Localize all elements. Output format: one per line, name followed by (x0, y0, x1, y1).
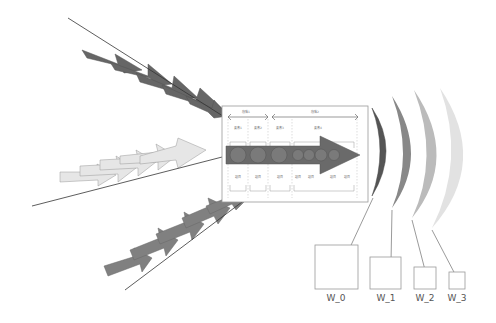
bottom-label-4: 項目 (295, 174, 301, 179)
top-label-2: 要素2 (254, 125, 262, 130)
input-arrow-group-middle (60, 138, 206, 186)
output-arc-w1 (392, 96, 411, 208)
output-arc-w3 (432, 88, 463, 228)
output-box-w3 (449, 272, 465, 289)
bottom-label-1: 項目 (235, 174, 241, 179)
top-label-3: 要素3 (276, 125, 284, 130)
output-label-w2: W_2 (415, 293, 434, 303)
diagram-canvas: 段階1 段階2 要素1 要素2 要素3 要素4 (0, 0, 496, 323)
output-box-w1 (370, 257, 401, 289)
output-arc-w2 (412, 90, 437, 218)
bottom-label-6: 項目 (330, 174, 336, 179)
output-box-w2 (414, 267, 436, 289)
top-label-1: 要素1 (234, 125, 242, 130)
connector-line-bottom (125, 196, 250, 290)
bottom-label-2: 項目 (255, 174, 261, 179)
process-panel: 段階1 段階2 要素1 要素2 要素3 要素4 (222, 106, 368, 202)
output-label-w0: W_0 (326, 293, 345, 303)
phase-label-2: 段階2 (311, 109, 319, 114)
top-label-4: 要素4 (314, 125, 322, 130)
connector-line-top (68, 18, 226, 118)
output-box-w0 (315, 245, 358, 289)
output-arc-w0 (372, 108, 386, 196)
bottom-label-3: 項目 (277, 174, 283, 179)
phase-label-1: 段階1 (242, 109, 250, 114)
bottom-label-7: 項目 (344, 174, 350, 179)
bottom-label-5: 項目 (308, 174, 314, 179)
input-arrow-group-top (82, 50, 228, 118)
output-label-w1: W_1 (376, 293, 395, 303)
output-label-w3: W_3 (447, 293, 466, 303)
